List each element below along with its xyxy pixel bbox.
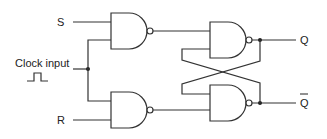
sr-flip-flop-diagram: S Clock input R Q [0,0,327,139]
nand-gate-2 [111,92,153,128]
clock-label: Clock input [15,57,69,69]
nand-gate-3 [210,22,252,58]
q-label: Q [300,34,309,46]
clock-pulse-icon [27,73,48,81]
nand-gate-1 [111,13,153,49]
clock-bus-wire [88,40,111,101]
r-label: R [57,114,65,126]
q-bar-label: Q [300,97,309,109]
nand-gate-4 [210,85,252,121]
s-label: S [57,16,64,28]
